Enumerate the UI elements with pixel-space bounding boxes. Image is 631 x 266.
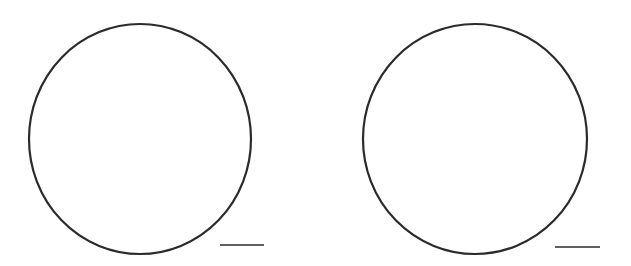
figure-canvas — [0, 0, 631, 266]
panel-right — [363, 24, 600, 254]
circle-outline — [29, 24, 251, 254]
circle-outline — [363, 24, 587, 254]
panel-left — [29, 24, 264, 254]
